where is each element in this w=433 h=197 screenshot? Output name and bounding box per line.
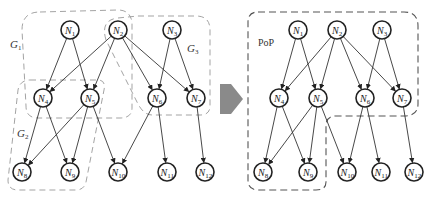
left-edge-n5-n8 [28,105,83,165]
right-node-n4: N4 [270,89,288,107]
left-node-n3: N3 [163,21,181,39]
left-edge-n2-n4 [50,36,111,92]
left-edge-n1-n4 [47,38,67,89]
left-node-n5: N5 [81,89,99,107]
left-node-n11: N11 [158,163,176,181]
left-edge-n5-n10 [93,106,114,163]
right-node-n2: N2 [328,21,346,39]
right-node-n5: N5 [309,89,327,107]
right-edge-n2-n4 [285,37,331,91]
right-edge-n4-n8 [265,107,277,163]
left-edge-n2-n5 [94,38,115,89]
dag-diagram: N1N2N3N4N5N6N7N8N9N10N11N12N1N2N3N4N5N6N… [0,0,433,197]
left-node-n7: N7 [187,89,205,107]
right-node-n10: N10 [338,163,356,181]
pop-label: PoP [258,37,275,48]
left-node-n4: N4 [34,89,52,107]
right-node-n3: N3 [373,21,391,39]
left-node-n10: N10 [109,163,127,181]
right-node-n7: N7 [393,89,411,107]
left-edge-n2-n7 [125,36,189,92]
right-edge-n3-n7 [385,39,400,89]
right-edge-n5-n9 [309,107,317,163]
group-label-g1: G1 [10,38,22,52]
left-edge-n6-n11 [158,107,166,163]
left-node-n6: N6 [148,89,166,107]
left-node-n2: N2 [109,21,127,39]
right-node-n6: N6 [356,89,374,107]
right-node-n12: N12 [405,163,423,181]
right-node-n11: N11 [372,163,390,181]
left-node-n9: N9 [61,163,79,181]
right-node-n8: N8 [254,163,272,181]
right-edge-n4-n9 [282,106,304,163]
right-node-n1: N1 [289,21,307,39]
left-node-n8: N8 [13,163,31,181]
left-edge-n1-n5 [73,39,88,89]
left-node-n12: N12 [196,163,214,181]
transform-arrow-icon [220,84,243,114]
right-edge-n2-n6 [340,38,361,89]
left-edge-n6-n10 [122,106,152,164]
right-edge-n6-n10 [349,107,363,163]
group-label-g3: G3 [187,42,199,56]
right-edge-n7-n12 [403,107,412,163]
left-node-n1: N1 [61,21,79,39]
left-edge-n3-n6 [159,39,170,89]
right-edge-n6-n11 [367,107,379,163]
group-label-g2: G2 [17,127,29,141]
right-node-n9: N9 [299,163,317,181]
right-edge-n5-n10 [321,106,343,163]
